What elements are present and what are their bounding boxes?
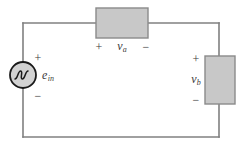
element-b-plus-sign: + bbox=[193, 53, 200, 65]
source-plus-sign: + bbox=[35, 52, 42, 64]
source-minus-sign: − bbox=[35, 90, 42, 102]
element-b-box bbox=[205, 56, 235, 104]
source-label: ein bbox=[42, 69, 54, 83]
circuit-diagram-figure: + ein − + va − + vb − bbox=[0, 0, 241, 152]
element-a-label: va bbox=[117, 40, 127, 54]
circuit-schematic-svg bbox=[0, 0, 241, 152]
source-circle bbox=[10, 62, 36, 88]
element-b-label: vb bbox=[191, 73, 201, 87]
ac-source-symbol bbox=[10, 62, 36, 88]
element-a-plus-sign: + bbox=[96, 41, 103, 53]
element-b-minus-sign: − bbox=[193, 94, 200, 106]
element-a-minus-sign: − bbox=[143, 41, 150, 53]
element-a-box bbox=[96, 8, 148, 38]
